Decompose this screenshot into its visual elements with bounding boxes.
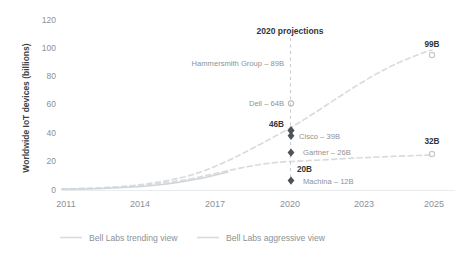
projection-line-label: 2020 projections xyxy=(256,26,323,36)
series-line-bell-labs-aggressive-view xyxy=(62,50,432,189)
x-tick-2014: 2014 xyxy=(130,199,150,209)
x-tick-2017: 2017 xyxy=(205,199,225,209)
value-label-46b: 46B xyxy=(269,120,284,129)
y-tick-20: 20 xyxy=(47,156,57,166)
endpoint-label-99b: 99B xyxy=(424,40,439,49)
annotation-hammersmith-group: Hammersmith Group – 89B xyxy=(192,59,284,68)
y-axis-ticks: 120 100 80 60 40 20 0 xyxy=(42,15,56,195)
endpoint-marker-trending xyxy=(429,151,434,156)
y-tick-40: 40 xyxy=(47,128,57,138)
chart-legend: Bell Labs trending view Bell Labs aggres… xyxy=(60,233,326,243)
annotation-cisco: Cisco – 39B xyxy=(299,132,340,141)
x-tick-2023: 2023 xyxy=(354,199,374,209)
chart-container: 120 100 80 60 40 20 0 Worldwide IoT devi… xyxy=(0,0,463,254)
legend-label-trending: Bell Labs trending view xyxy=(89,233,178,243)
y-axis-title: Worldwide IoT devices (billions) xyxy=(21,43,31,172)
marker-cisco xyxy=(288,132,295,140)
y-tick-80: 80 xyxy=(47,71,57,81)
y-tick-100: 100 xyxy=(42,43,56,53)
annotation-machina: Machina – 12B xyxy=(303,177,354,186)
annotation-dell: Dell – 64B xyxy=(249,99,284,108)
x-tick-2025: 2025 xyxy=(424,199,444,209)
annotation-gartner: Gartner – 26B xyxy=(303,148,351,157)
x-axis-ticks: 2011 2014 2017 2020 2023 2025 xyxy=(56,199,444,209)
y-tick-60: 60 xyxy=(47,99,57,109)
y-tick-120: 120 xyxy=(42,15,56,25)
series-line-bell-labs-trending-view xyxy=(62,155,432,189)
iot-devices-line-chart: 120 100 80 60 40 20 0 Worldwide IoT devi… xyxy=(0,0,463,254)
value-label-20b: 20B xyxy=(297,165,312,174)
endpoint-marker-aggressive xyxy=(429,52,434,57)
x-tick-2020: 2020 xyxy=(280,199,300,209)
endpoint-label-32b: 32B xyxy=(424,137,439,146)
history-segment xyxy=(62,172,228,189)
legend-label-aggressive: Bell Labs aggressive view xyxy=(226,233,326,243)
y-tick-0: 0 xyxy=(51,185,56,195)
marker-gartner xyxy=(288,148,295,156)
x-tick-2011: 2011 xyxy=(56,199,75,209)
marker-machina xyxy=(288,176,295,184)
